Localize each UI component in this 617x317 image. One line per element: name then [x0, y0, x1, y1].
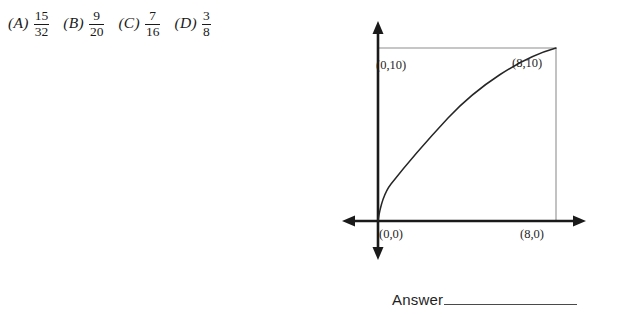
answer-field[interactable]: Answer: [392, 292, 577, 307]
answer-choices: (A) 15 32 (B) 9 20 (C) 7 16 (D) 3 8: [8, 8, 211, 38]
choice-b-denominator: 20: [89, 24, 105, 39]
choice-a-letter: (A): [8, 14, 29, 32]
choice-b-letter: (B): [63, 14, 84, 32]
choice-d-denominator: 8: [202, 24, 211, 39]
graph-svg: (0,10) (8,10) (0,0) (8,0): [330, 8, 605, 270]
y-axis-bottom-arrowhead: [373, 247, 384, 260]
x-axis-left-arrowhead: [342, 216, 355, 227]
choice-d-numerator: 3: [202, 9, 211, 23]
answer-label: Answer: [392, 292, 443, 307]
choice-b-fraction: 9 20: [89, 9, 105, 39]
choice-b[interactable]: (B) 9 20: [63, 8, 104, 38]
choice-b-numerator: 9: [92, 9, 101, 23]
coordinate-graph: (0,10) (8,10) (0,0) (8,0): [330, 8, 605, 270]
label-top-left: (0,10): [376, 58, 406, 72]
y-axis-top-arrowhead: [373, 21, 384, 34]
answer-blank-rule[interactable]: [444, 304, 577, 305]
choice-c-numerator: 7: [148, 9, 157, 23]
choice-d-letter: (D): [174, 14, 196, 32]
choice-d-fraction: 3 8: [202, 9, 211, 39]
choice-a-fraction: 15 32: [34, 9, 50, 39]
label-origin: (0,0): [379, 227, 403, 241]
label-top-right: (8,10): [512, 56, 542, 70]
bounding-box: [378, 48, 556, 221]
choice-c-denominator: 16: [145, 24, 161, 39]
choice-c-fraction: 7 16: [145, 9, 161, 39]
choice-a-denominator: 32: [34, 24, 50, 39]
choice-d[interactable]: (D) 3 8: [174, 8, 210, 38]
choice-a-numerator: 15: [34, 9, 50, 23]
choice-a[interactable]: (A) 15 32: [8, 8, 49, 38]
curve-path: [378, 48, 556, 221]
y-axis: [373, 21, 384, 260]
x-axis-right-arrowhead: [573, 216, 586, 227]
worksheet-page: (A) 15 32 (B) 9 20 (C) 7 16 (D) 3 8: [0, 0, 617, 317]
choice-c-letter: (C): [118, 14, 140, 32]
label-bottom-right: (8,0): [520, 227, 544, 241]
choice-c[interactable]: (C) 7 16: [118, 8, 160, 38]
